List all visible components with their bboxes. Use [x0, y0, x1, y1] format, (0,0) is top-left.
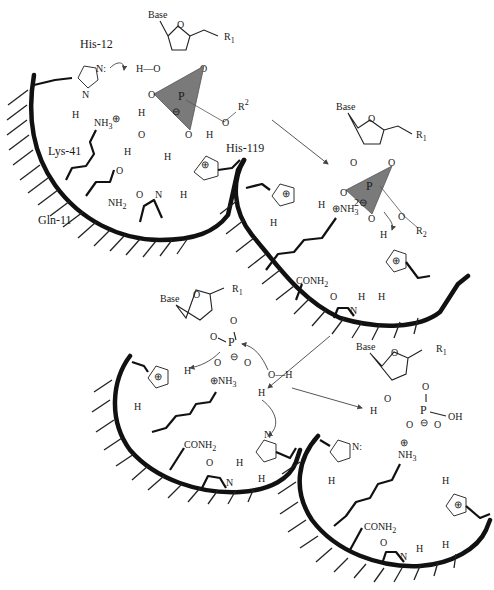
his119-sidechain-4 [466, 506, 490, 518]
o-2prime-4: O [384, 393, 391, 404]
amide-o-4: O [380, 537, 387, 548]
o-phos-b-4: O [434, 419, 441, 430]
r2-label-2: R2 [416, 225, 427, 239]
his119-h-3: H [258, 473, 265, 484]
ribose-o-3: O [193, 289, 200, 300]
lys41-nh3-4: NH3 [398, 449, 416, 463]
base-label-1: Base [148, 9, 168, 20]
label-gln11: Gln-11 [38, 213, 72, 227]
electron-arrow-2 [384, 212, 393, 230]
enzyme-surface-2 [236, 160, 468, 326]
reaction-arrow-1-2 [272, 120, 328, 164]
o-phos-b-2: O [368, 213, 375, 224]
his12-h: H [72, 109, 79, 120]
o-2prime-3: O [210, 331, 217, 342]
o-phos-b-1: O [185, 129, 192, 140]
backbone-amide-3 [202, 476, 226, 488]
o-2prime-2: O [350, 157, 357, 168]
label-lys41: Lys-41 [48, 144, 81, 158]
r1-label-2: R1 [416, 129, 427, 143]
phosphorus-1: P [178, 89, 185, 103]
charge-3: ⊖ [230, 351, 238, 362]
ribose-o-4: O [391, 347, 398, 358]
panel-1: His-12 N: N H Lys-41 NH3⊕ Gln-11 O NH2 O… [7, 9, 264, 257]
lys41-charge-4: ⊕ [400, 437, 408, 448]
backbone-amide-1 [140, 200, 162, 222]
water-o-1: O [138, 129, 145, 140]
his12-sidechain-3 [132, 362, 148, 372]
amide-o-1: O [136, 189, 143, 200]
o-3prime-3: O [230, 315, 237, 326]
water-h-3: H [258, 387, 265, 398]
his12-h-2: H [270, 217, 277, 228]
lys41-sidechain-3 [152, 392, 216, 432]
his12-sidechain-4 [320, 440, 330, 446]
o-phos-a-4: O [406, 419, 413, 430]
his119-h-4: H [442, 539, 449, 550]
r2-label-1: R2 [238, 98, 249, 112]
his119-sidechain-2 [406, 262, 430, 278]
his119-charge: ⊕ [201, 159, 209, 170]
lys41-nh3-3: ⊕NH3 [210, 375, 236, 389]
h-his119-2: H [380, 229, 387, 240]
his119-ring-3 [256, 440, 276, 462]
h-o-2prime-1: H—O [136, 63, 160, 74]
his12-charge-2: ⊕ [282, 188, 290, 199]
reaction-arrow-3-4 [292, 388, 362, 408]
gln11-stub-4 [350, 528, 362, 550]
ribose-o-1: O [177, 19, 184, 30]
phosphorus-2: P [366, 179, 373, 193]
phosphate-bonds-4 [426, 394, 446, 416]
his12-n-tau: N: [96, 63, 106, 74]
base-label-2: Base [336, 101, 356, 112]
panel-3: ⊕ H H ⊕NH3 CONH2 O N H N H Base O R1 O O [92, 283, 300, 504]
o-phos-b-3: O [244, 357, 251, 368]
amide-n-2: N [350, 305, 357, 316]
panel-2: ⊕ H H ⊕NH3 CONH2 O N H Base O R1 O O P O… [220, 101, 468, 340]
his119-h-2: H [378, 291, 385, 302]
his12-h-top-3: H [184, 365, 191, 376]
label-his119: His-119 [226, 141, 264, 155]
his12-ring-4 [330, 440, 350, 462]
oh-4: OH [448, 411, 462, 422]
amide-h-1: H [164, 151, 171, 162]
his12-imidazole-ring [78, 66, 98, 88]
charge-2: 2⊖ [354, 197, 367, 208]
wall-hatching-2 [220, 200, 418, 340]
o-phos-a-2: O [340, 187, 347, 198]
gln11-conh2-4: CONH2 [364, 521, 396, 535]
amide-n-4: N [400, 551, 407, 562]
h-2prime-4: H [370, 405, 377, 416]
o-phos-a-1: O [148, 89, 155, 100]
amide-n-3: N [226, 477, 233, 488]
his119-charge-4: ⊕ [454, 499, 462, 510]
base-label-3: Base [160, 293, 180, 304]
gln11-sidechain [86, 170, 114, 196]
charge-4: ⊖ [420, 417, 428, 428]
his119-h-bottom: H [180, 189, 187, 200]
ribose-o-2: O [368, 113, 375, 124]
his119-h-top-4: H [442, 475, 449, 486]
amide-h-3: H [236, 457, 243, 468]
his12-n-pi: N [82, 89, 89, 100]
electron-arrow-1 [110, 63, 124, 70]
amide-o-3: O [206, 457, 213, 468]
his12-h-3: H [134, 401, 141, 412]
base-label-4: Base [356, 341, 376, 352]
o-r2-1: O [222, 117, 229, 128]
o-phos-a-3: O [214, 357, 221, 368]
r1-label-4: R1 [436, 343, 447, 357]
his12-n-4: N: [352, 441, 362, 452]
panel-4: N: H NH3 ⊕ CONH2 O N H H ⊕ H Base O R1 O… [278, 341, 490, 582]
r1-label-1: R1 [224, 31, 235, 45]
mechanism-diagram: His-12 N: N H Lys-41 NH3⊕ Gln-11 O NH2 O… [0, 0, 494, 590]
gln11-stub-3 [170, 448, 184, 470]
his12-h-4: H [328, 475, 335, 486]
phosphorus-4: P [420, 403, 427, 417]
lys41-nh3: NH3⊕ [94, 113, 120, 131]
amide-o-2: O [330, 291, 337, 302]
his12-sidechain-2 [246, 184, 270, 190]
gln11-conh2-3: CONH2 [184, 439, 216, 453]
ribose-ring-1 [160, 21, 218, 50]
o-r2-2: O [398, 211, 405, 222]
